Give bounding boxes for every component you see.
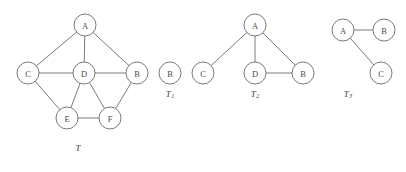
- edge-T-D-E: [71, 83, 80, 107]
- node-label-T-E: E: [64, 114, 69, 124]
- node-T1-B[interactable]: B: [159, 62, 181, 84]
- node-T-E[interactable]: E: [56, 107, 78, 129]
- node-label-T1-B: B: [167, 69, 173, 79]
- node-label-T3-C: C: [378, 69, 384, 79]
- graph-T: ACDBEFT: [17, 14, 148, 153]
- node-label-T3-A: A: [340, 26, 347, 36]
- edge-T-A-B: [93, 32, 129, 65]
- graph-caption-T2: T2: [251, 89, 260, 99]
- graph-T1: BT1: [159, 62, 181, 99]
- node-label-T2-C: C: [200, 69, 206, 79]
- graph-T3: ABCT3: [332, 19, 395, 99]
- node-label-T2-A: A: [252, 21, 259, 31]
- node-T-D[interactable]: D: [73, 62, 95, 84]
- edge-T-A-D: [84, 36, 85, 62]
- node-T-B[interactable]: B: [126, 62, 148, 84]
- node-label-T-A: A: [82, 21, 89, 31]
- edge-T2-A-C: [211, 32, 247, 65]
- node-T3-A[interactable]: A: [332, 19, 354, 41]
- node-T-C[interactable]: C: [17, 62, 39, 84]
- node-T2-C[interactable]: C: [192, 62, 214, 84]
- figure-root: ACDBEFTBT1ACDBT2ABCT3: [0, 0, 406, 172]
- node-label-T3-B: B: [381, 26, 387, 36]
- node-label-T-C: C: [25, 69, 31, 79]
- node-T2-B[interactable]: B: [292, 62, 314, 84]
- node-T3-C[interactable]: C: [370, 62, 392, 84]
- node-label-T-B: B: [134, 69, 140, 79]
- node-label-T2-D: D: [252, 69, 258, 79]
- edge-T-C-E: [35, 81, 60, 109]
- edge-T-D-F: [90, 83, 105, 109]
- node-T-A[interactable]: A: [74, 14, 96, 36]
- graph-caption-subscript-T3: 3: [348, 93, 352, 99]
- graph-caption-T1: T1: [166, 89, 175, 99]
- graph-caption-T3: T3: [344, 89, 353, 99]
- node-label-T2-B: B: [300, 69, 306, 79]
- node-label-T-F: F: [108, 114, 113, 124]
- edge-T-A-C: [36, 32, 76, 66]
- edge-T-B-F: [116, 82, 132, 108]
- edge-T3-A-C: [350, 38, 373, 65]
- graph-caption-subscript-T1: 1: [171, 93, 174, 99]
- node-T2-A[interactable]: A: [244, 14, 266, 36]
- graph-T2: ACDBT2: [192, 14, 314, 99]
- graph-diagram-canvas: ACDBEFTBT1ACDBT2ABCT3: [0, 0, 406, 172]
- graph-caption-subscript-T2: 2: [256, 93, 259, 99]
- node-T-F[interactable]: F: [99, 107, 121, 129]
- node-label-T-D: D: [81, 69, 87, 79]
- graph-caption-T: T: [75, 143, 81, 153]
- edge-T2-A-B: [263, 33, 295, 65]
- node-T3-B[interactable]: B: [373, 19, 395, 41]
- node-T2-D[interactable]: D: [244, 62, 266, 84]
